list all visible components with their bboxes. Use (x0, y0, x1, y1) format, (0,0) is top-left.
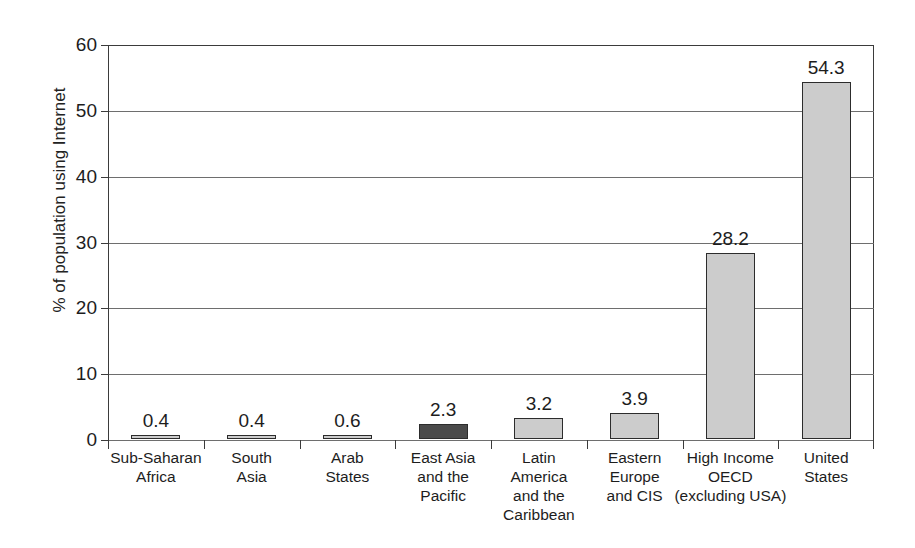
bar-value-label-0: 0.4 (108, 410, 204, 432)
x-axis-label-6-line-2: (excluding USA) (674, 486, 788, 505)
gridline-10 (108, 374, 874, 375)
y-tick-30 (101, 243, 109, 244)
y-tick-50 (101, 111, 109, 112)
bar-7[interactable] (802, 82, 851, 439)
x-axis-label-7-line-1: States (769, 467, 883, 486)
y-tick-label-40: 40 (76, 165, 97, 187)
y-tick-60 (101, 45, 109, 46)
bar-value-label-3: 2.3 (395, 399, 491, 421)
y-tick-label-50: 50 (76, 99, 97, 121)
bar-3[interactable] (419, 424, 468, 439)
bar-value-label-2: 0.6 (300, 410, 396, 432)
y-tick-label-0: 0 (86, 429, 97, 451)
y-tick-20 (101, 308, 109, 309)
gridline-50 (108, 111, 874, 112)
y-tick-10 (101, 374, 109, 375)
y-tick-label-10: 10 (76, 363, 97, 385)
bar-4[interactable] (514, 418, 563, 439)
bar-chart: % of population using Internet 010203040… (0, 0, 915, 548)
bar-value-label-6: 28.2 (683, 228, 779, 250)
y-tick-label-60: 60 (76, 34, 97, 56)
bar-value-label-7: 54.3 (778, 57, 874, 79)
gridline-40 (108, 177, 874, 178)
bar-value-label-1: 0.4 (204, 410, 300, 432)
x-axis-label-7-line-0: United (769, 448, 883, 467)
gridline-20 (108, 308, 874, 309)
bar-value-label-4: 3.2 (491, 393, 587, 415)
x-axis-label-7: UnitedStates (769, 448, 883, 486)
y-tick-40 (101, 177, 109, 178)
y-axis-title: % of population using Internet (50, 0, 70, 410)
y-tick-label-30: 30 (76, 231, 97, 253)
bar-value-label-5: 3.9 (587, 388, 683, 410)
bar-2[interactable] (323, 435, 372, 439)
bar-5[interactable] (610, 413, 659, 439)
y-tick-label-20: 20 (76, 297, 97, 319)
bar-0[interactable] (131, 435, 180, 439)
bar-6[interactable] (706, 253, 755, 439)
x-axis-label-4-line-3: Caribbean (482, 505, 596, 524)
gridline-60 (108, 45, 874, 46)
bar-1[interactable] (227, 435, 276, 439)
